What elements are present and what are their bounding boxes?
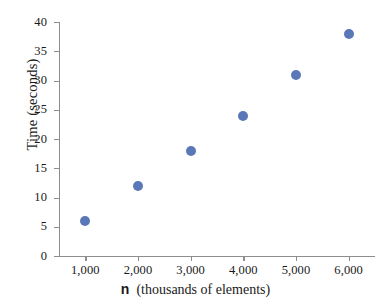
y-axis-tick-label: 0 <box>17 250 47 263</box>
y-axis-tick <box>54 110 59 111</box>
x-axis-tick <box>296 256 297 261</box>
y-axis-tick-label: 10 <box>17 191 47 204</box>
x-axis-tick <box>349 256 350 261</box>
y-axis-line <box>59 22 60 257</box>
y-axis-tick-label: 40 <box>17 16 47 29</box>
data-point <box>80 216 90 226</box>
y-axis-tick <box>54 22 59 23</box>
scatter-plot-figure: 0510152025303540 1,0002,0003,0004,0005,0… <box>0 0 391 305</box>
data-point <box>186 146 196 156</box>
x-axis-title: n (thousands of elements) <box>0 281 391 298</box>
data-point <box>291 70 301 80</box>
x-axis-tick <box>191 256 192 261</box>
x-axis-tick <box>138 256 139 261</box>
y-axis-tick <box>54 256 59 257</box>
data-point <box>238 111 248 121</box>
y-axis-tick <box>54 139 59 140</box>
x-axis-tick-label: 1,000 <box>57 264 113 277</box>
y-axis-tick <box>54 198 59 199</box>
y-axis-tick <box>54 51 59 52</box>
y-axis-tick-label: 5 <box>17 220 47 233</box>
x-axis-units-label: (thousands of elements) <box>136 282 270 297</box>
x-axis-tick-label: 3,000 <box>163 264 219 277</box>
data-point <box>344 29 354 39</box>
x-axis-tick <box>85 256 86 261</box>
x-axis-tick-label: 5,000 <box>268 264 324 277</box>
x-axis-tick-label: 6,000 <box>321 264 377 277</box>
y-axis-tick <box>54 81 59 82</box>
x-axis-line <box>59 256 375 257</box>
x-axis-tick-label: 2,000 <box>110 264 166 277</box>
x-axis-tick <box>243 256 244 261</box>
y-axis-tick <box>54 227 59 228</box>
x-axis-tick-label: 4,000 <box>215 264 271 277</box>
y-axis-tick <box>54 168 59 169</box>
data-point <box>133 181 143 191</box>
y-axis-title: Time (seconds) <box>24 30 41 180</box>
